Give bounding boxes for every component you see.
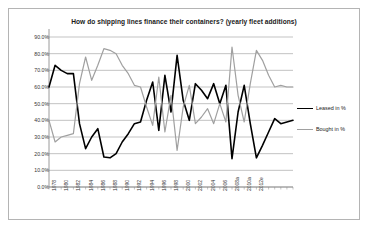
legend-label: Bought in % <box>316 126 345 132</box>
legend-label: Leased in % <box>316 105 346 111</box>
chart-plot <box>9 9 361 221</box>
legend-swatch-icon <box>297 108 313 109</box>
chart-frame: How do shipping lines finance their cont… <box>8 8 360 220</box>
legend-item[interactable]: Bought in % <box>297 126 345 132</box>
legend-item[interactable]: Leased in % <box>297 105 346 111</box>
legend-swatch-icon <box>297 129 313 130</box>
